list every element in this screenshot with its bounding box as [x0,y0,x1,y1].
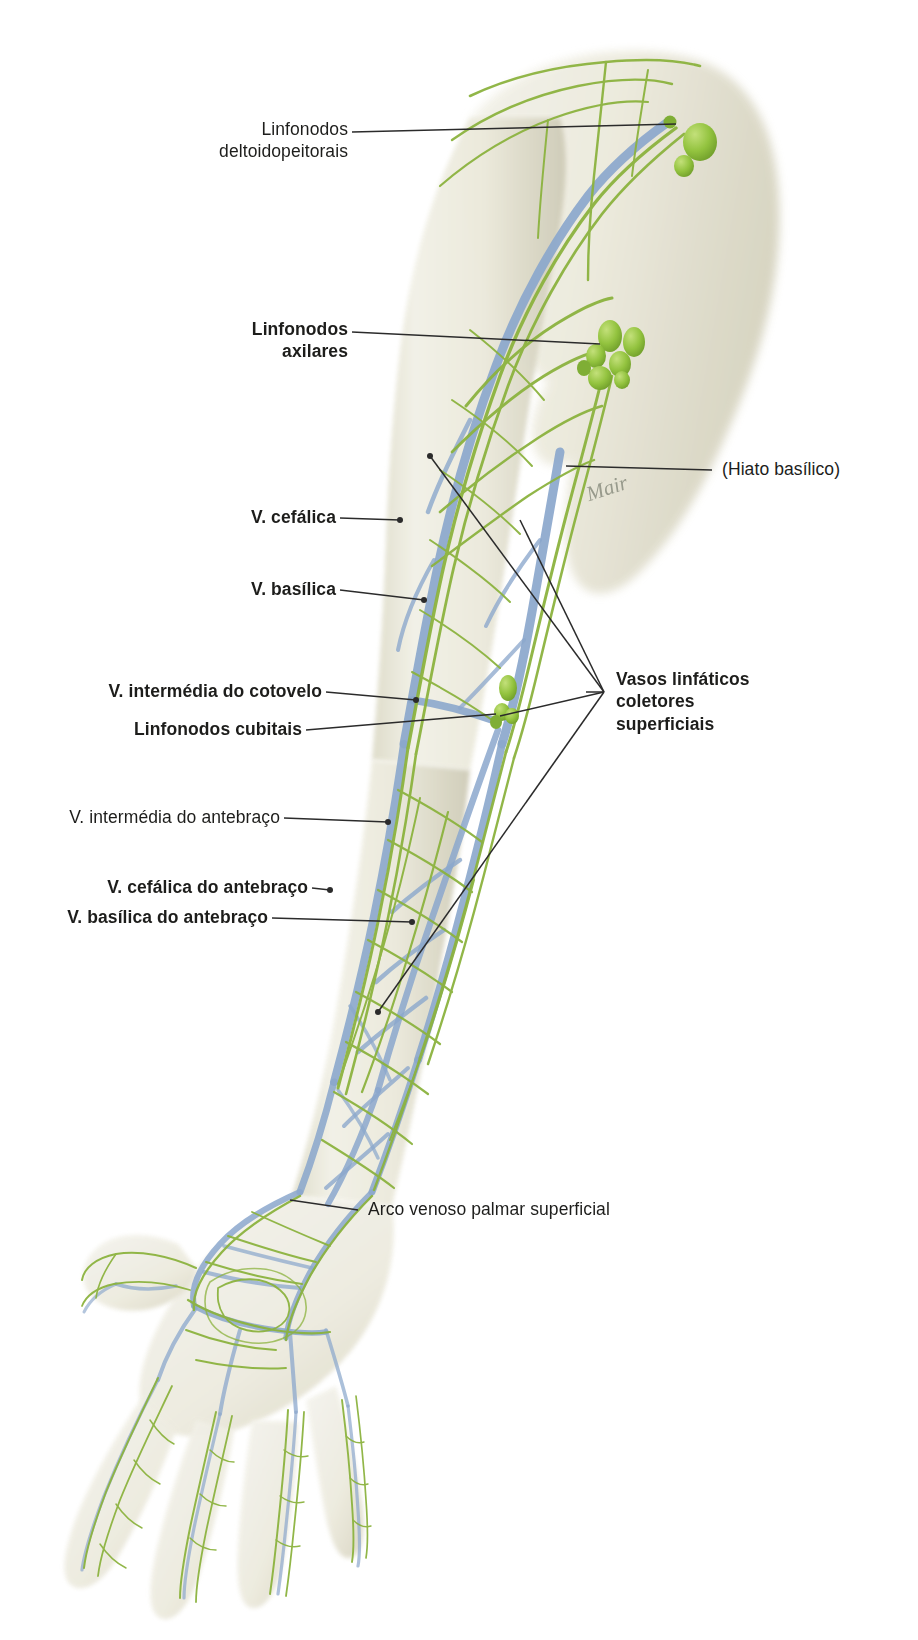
leader-basilic-hiatus [566,466,712,470]
leader-collectors-a [430,456,604,692]
label-v-basilica-do-antebraco: V. basílica do antebraço [0,906,268,928]
cubital-node-group [490,675,519,729]
leader-accessory-cephalic [312,888,330,890]
label-v-cefalica-do-antebraco: V. cefálica do antebraço [0,876,308,898]
leader-axillary [352,332,600,344]
limb-silhouette [64,51,779,1619]
lymph-nodes [490,116,717,730]
leader-collectors-b [520,520,604,692]
leader-deltopectoral [352,124,676,132]
leader-basilic-forearm [272,918,412,922]
leader-median-cubital [326,692,416,700]
superficial-lymphatic-vessels [82,60,700,1602]
leader-collectors-c [500,692,604,716]
artist-signature: Mair [583,470,631,507]
deltopectoral-node-group [664,116,718,178]
label-arco-venoso-palmar-superficial: Arco venoso palmar superficial [368,1198,698,1220]
axillary-node-group [577,320,645,390]
label-linfonodos-deltoidopeitorais: Linfonodos deltoidopeitorais [48,118,348,163]
leader-cubital-nodes [306,714,496,730]
leader-dots [327,453,433,1015]
label-linfonodos-axilares: Linfonodos axilares [48,318,348,363]
label-v-intermedia-do-antebraco: V. intermédia do antebraço [0,806,280,828]
label-v-basilica: V. basílica [40,578,336,600]
label-hiato-basilico: (Hiato basílico) [722,458,912,480]
leader-collectors-d [378,692,604,1012]
leader-basilic [340,590,424,600]
leader-palmar-arch [290,1200,358,1210]
label-v-intermedia-do-cotovelo: V. intermédia do cotovelo [16,680,322,702]
label-v-cefalica: V. cefálica [40,506,336,528]
figure-canvas: Mair Linfonodos deltoidopeitorais Linfon… [0,0,918,1640]
label-linfonodos-cubitais: Linfonodos cubitais [16,718,302,740]
label-vasos-linfaticos-coletores-superficiais: Vasos linfáticos coletores superficiais [616,668,866,735]
leader-lines [272,124,712,1210]
leader-median-antebrachial [284,818,388,822]
leader-cephalic [340,518,400,520]
